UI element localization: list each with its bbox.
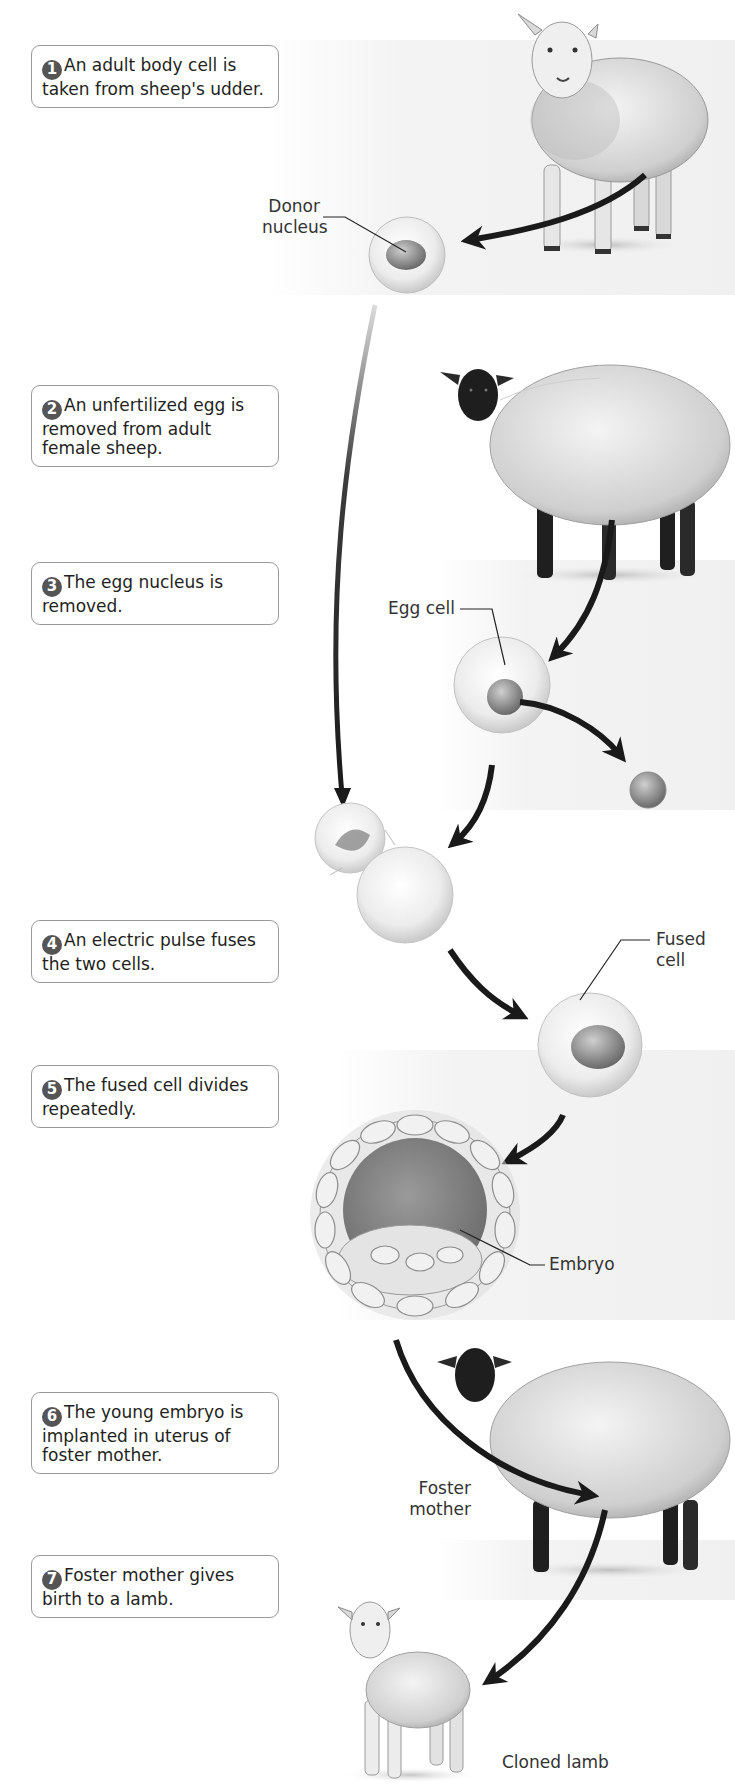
egg-donor-sheep-illustration: [440, 365, 730, 585]
embryo-label: Embryo: [549, 1254, 615, 1275]
egg-cell-label: Egg cell: [388, 598, 455, 619]
step-7-box: 7Foster mother gives birth to a lamb.: [31, 1555, 279, 1618]
step-badge: 1: [42, 60, 62, 80]
cloned-lamb-label: Cloned lamb: [502, 1752, 609, 1773]
step-5-box: 5The fused cell divides repeatedly.: [31, 1065, 279, 1128]
arrow-donor-cell-to-fusion: [336, 305, 375, 795]
step-text: The egg nucleus is removed.: [42, 572, 223, 616]
step-2-box: 2An unfertilized egg is removed from adu…: [31, 385, 279, 467]
embryo-blastocyst: [310, 1110, 520, 1320]
donor-sheep-illustration: [518, 14, 708, 255]
step-badge: 5: [42, 1080, 62, 1100]
foster-mother-label: Foster mother: [405, 1478, 471, 1520]
step-text: The young embryo is implanted in uterus …: [42, 1402, 243, 1465]
removed-egg-nucleus: [630, 772, 666, 808]
step-badge: 3: [42, 577, 62, 597]
fusing-cells: [315, 803, 453, 943]
step-6-box: 6The young embryo is implanted in uterus…: [31, 1392, 279, 1474]
foster-mother-sheep-illustration: [437, 1348, 730, 1580]
step-text: An electric pulse fuses the two cells.: [42, 930, 256, 974]
step-text: Foster mother gives birth to a lamb.: [42, 1565, 234, 1609]
step-text: The fused cell divides repeatedly.: [42, 1075, 248, 1119]
cloned-lamb-illustration: [338, 1602, 480, 1783]
step-text: An unfertilized egg is removed from adul…: [42, 395, 244, 458]
step-text: An adult body cell is taken from sheep's…: [42, 55, 264, 99]
arrow-to-embryo: [510, 1115, 563, 1160]
fused-cell-label: Fused cell: [656, 929, 735, 971]
diagram-illustration: [0, 0, 735, 1792]
step-badge: 7: [42, 1570, 62, 1590]
step-3-box: 3The egg nucleus is removed.: [31, 562, 279, 625]
step-badge: 4: [42, 935, 62, 955]
arrow-egg-to-fusion: [455, 765, 492, 842]
donor-cell: [369, 217, 445, 293]
step-badge: 2: [42, 400, 62, 420]
step-4-box: 4An electric pulse fuses the two cells.: [31, 920, 279, 983]
donor-nucleus-label: Donor nucleus: [262, 196, 320, 238]
arrow-to-fused-cell: [450, 950, 520, 1015]
step-badge: 6: [42, 1407, 62, 1427]
fused-cell-pointer: [580, 940, 650, 1000]
fused-cell: [538, 993, 642, 1097]
step-1-box: 1An adult body cell is taken from sheep'…: [31, 45, 279, 108]
